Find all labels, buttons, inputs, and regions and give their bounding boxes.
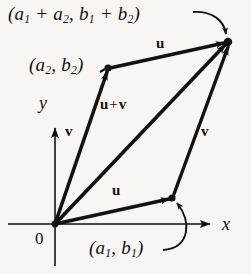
sum-b1-sub: 1: [89, 13, 95, 26]
label-x-axis: x: [222, 215, 230, 233]
label-vector-v-right: v: [201, 124, 209, 139]
sum-comma: ,: [69, 3, 79, 24]
sum-a2: a: [53, 3, 63, 24]
vector-v-left: [55, 72, 107, 224]
sum-plus: +: [109, 96, 118, 112]
label-v-point: (a2, b2): [29, 55, 84, 74]
label-u-point: (a1, b1): [89, 238, 144, 257]
leader-v-point: [100, 69, 105, 72]
v-close-paren: ): [77, 54, 84, 75]
u-close-paren: ): [137, 237, 144, 258]
sum-plus-1: +: [30, 3, 53, 24]
v-b2-sub: 2: [71, 64, 77, 77]
sum-b2-sub: 2: [127, 13, 133, 26]
sum-plus-2: +: [95, 3, 118, 24]
leader-u-point: [163, 203, 186, 250]
label-sum-point: (a1 + a2, b1 + b2): [8, 4, 140, 23]
sum-a1-sub: 1: [24, 13, 30, 26]
label-vector-u-bottom: u: [112, 183, 120, 198]
u-b1: b: [121, 237, 131, 258]
vertex-dot-v: [104, 64, 111, 71]
sum-a1: a: [15, 3, 25, 24]
label-vector-v-left: v: [65, 124, 73, 139]
vertex-dot-sum: [224, 38, 232, 46]
sum-a2-sub: 2: [63, 13, 69, 26]
u-a1: a: [96, 237, 106, 258]
sum-close-paren: ): [133, 3, 140, 24]
v-a2-sub: 2: [45, 64, 51, 77]
u-comma: ,: [111, 237, 121, 258]
sum-u: u: [100, 96, 109, 112]
label-y-axis: y: [39, 94, 47, 112]
leader-sum-point: [193, 12, 226, 34]
sum-b1: b: [79, 3, 89, 24]
v-a2: a: [36, 54, 46, 75]
vector-u-bottom: [55, 199, 169, 224]
u-b1-sub: 1: [131, 247, 137, 260]
v-comma: ,: [51, 54, 61, 75]
sum-b2: b: [118, 3, 128, 24]
v-b2: b: [61, 54, 71, 75]
label-vector-u-top: u: [156, 36, 164, 51]
sum-v: v: [119, 96, 128, 112]
label-vector-sum: u+v: [100, 97, 127, 112]
u-a1-sub: 1: [105, 247, 111, 260]
label-origin: 0: [35, 230, 44, 247]
vector-addition-figure: (a1 + a2, b1 + b2) (a2, b2) (a1, b1) u u…: [0, 0, 251, 274]
vertex-dot-u: [168, 194, 175, 201]
vertex-dot-origin: [52, 221, 59, 228]
